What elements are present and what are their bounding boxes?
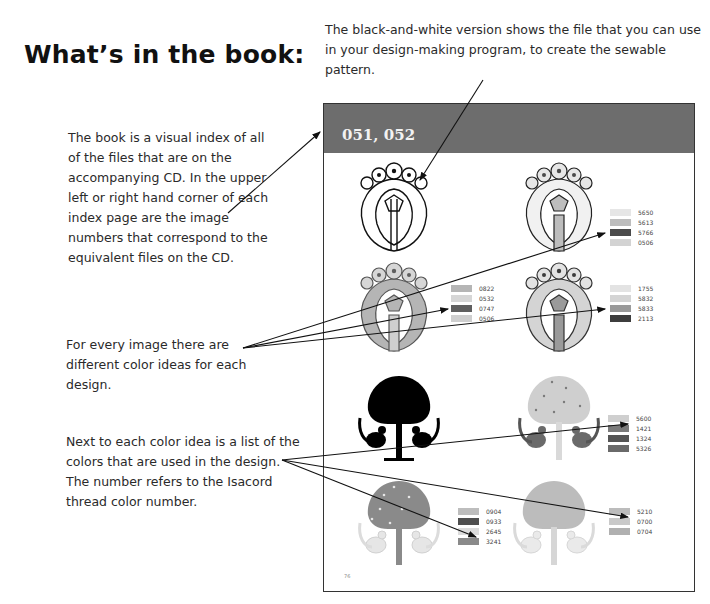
color-legend-tree-3: 5210 0700 0704 xyxy=(609,507,652,537)
color-swatch xyxy=(610,239,631,246)
color-swatch xyxy=(458,538,479,545)
callout-color-list: Next to each color idea is a list of the… xyxy=(66,432,306,512)
legend-row: 0700 xyxy=(609,517,652,526)
color-swatch xyxy=(608,445,629,452)
color-swatch xyxy=(458,508,479,515)
section-heading: What’s in the book: xyxy=(24,40,304,69)
legend-row: 1755 xyxy=(610,284,653,293)
color-swatch xyxy=(609,528,630,535)
tree-color-2-icon xyxy=(354,479,444,569)
callout-bw-version: The black-and-white version shows the fi… xyxy=(325,20,705,80)
color-swatch xyxy=(451,315,472,322)
crest-color-1-icon xyxy=(514,159,604,254)
legend-row: 0933 xyxy=(458,517,501,526)
legend-row: 5832 xyxy=(610,294,653,303)
legend-row: 2645 xyxy=(458,527,501,536)
crest-color-3-icon xyxy=(514,259,604,354)
legend-row: 1421 xyxy=(608,424,651,433)
color-swatch xyxy=(458,528,479,535)
color-legend-tree-2: 0904 0933 2645 3241 xyxy=(458,507,501,547)
color-swatch xyxy=(451,305,472,312)
color-swatch xyxy=(609,508,630,515)
color-legend-crest-3: 1755 5832 5833 2113 xyxy=(610,284,653,324)
legend-row: 1324 xyxy=(608,434,651,443)
legend-row: 5613 xyxy=(610,218,653,227)
legend-row: 5833 xyxy=(610,304,653,313)
legend-row: 0822 xyxy=(451,284,494,293)
color-legend-tree-1: 5600 1421 1324 5326 xyxy=(608,414,651,454)
tree-bw-icon xyxy=(354,374,444,464)
callout-visual-index: The book is a visual index of all of the… xyxy=(68,128,278,268)
color-legend-crest-2: 0822 0532 0747 0506 xyxy=(451,284,494,324)
legend-row: 0747 xyxy=(451,304,494,313)
color-swatch xyxy=(610,229,631,236)
legend-row: 5210 xyxy=(609,507,652,516)
color-swatch xyxy=(610,285,631,292)
page-folio: 76 xyxy=(344,573,350,579)
legend-row: 5326 xyxy=(608,444,651,453)
legend-row: 0506 xyxy=(610,238,653,247)
color-swatch xyxy=(608,435,629,442)
color-swatch xyxy=(609,518,630,525)
book-page-illustration: 051, 052 xyxy=(323,103,695,592)
legend-row: 0704 xyxy=(609,527,652,536)
color-swatch xyxy=(610,209,631,216)
callout-color-ideas: For every image there are different colo… xyxy=(66,335,266,395)
legend-row: 5600 xyxy=(608,414,651,423)
crest-bw-icon xyxy=(349,159,439,254)
crest-color-2-icon xyxy=(349,259,439,354)
legend-row: 2113 xyxy=(610,314,653,323)
legend-row: 0506 xyxy=(451,314,494,323)
legend-row: 5766 xyxy=(610,228,653,237)
color-swatch xyxy=(610,295,631,302)
tree-color-3-icon xyxy=(509,479,599,569)
color-swatch xyxy=(458,518,479,525)
page-image-numbers: 051, 052 xyxy=(342,126,415,144)
tree-color-1-icon xyxy=(514,374,604,464)
color-legend-crest-1: 5650 5613 5766 0506 xyxy=(610,208,653,248)
legend-row: 0904 xyxy=(458,507,501,516)
legend-row: 5650 xyxy=(610,208,653,217)
color-swatch xyxy=(451,295,472,302)
color-swatch xyxy=(608,415,629,422)
color-swatch xyxy=(451,285,472,292)
legend-row: 0532 xyxy=(451,294,494,303)
color-swatch xyxy=(610,305,631,312)
legend-row: 3241 xyxy=(458,537,501,546)
color-swatch xyxy=(610,315,631,322)
color-swatch xyxy=(608,425,629,432)
color-swatch xyxy=(610,219,631,226)
